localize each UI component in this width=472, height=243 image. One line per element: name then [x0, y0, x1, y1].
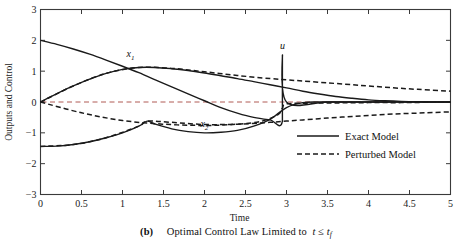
legend-label: Perturbed Model — [345, 149, 416, 160]
x-tick-label: 0.5 — [75, 198, 88, 209]
series-u-exact-model- — [41, 40, 451, 125]
x-tick-label: 2 — [202, 198, 207, 209]
legend-label: Exact Model — [345, 131, 399, 142]
curve-label-x1: x1 — [126, 48, 135, 62]
svg-text:x1: x1 — [126, 48, 135, 62]
x-axis-title: Time — [230, 213, 250, 223]
caption-var: t ≤ tf — [310, 226, 332, 237]
x-tick-label: 1 — [120, 198, 125, 209]
series-x1-perturbed-model- — [41, 67, 451, 102]
figure-panel-b: 00.511.522.533.544.553210−1−2−3 TimeOutp… — [0, 0, 472, 243]
y-tick-label: 0 — [32, 97, 37, 108]
x-tick-label: 3.5 — [321, 198, 334, 209]
caption-tag: (b) — [140, 226, 153, 237]
figure-caption: (b) Optimal Control Law Limited to t ≤ t… — [0, 226, 472, 239]
curve-label-u: u — [280, 40, 285, 51]
series-x1-exact-model- — [41, 67, 451, 102]
chart-canvas: 00.511.522.533.544.553210−1−2−3 TimeOutp… — [0, 0, 472, 243]
x-tick-label: 4 — [366, 198, 371, 209]
y-tick-label: −3 — [26, 189, 37, 200]
caption-text: Optimal Control Law Limited to — [167, 226, 307, 237]
svg-text:x2: x2 — [199, 118, 208, 132]
y-tick-label: −2 — [26, 158, 37, 169]
x-tick-label: 2.5 — [239, 198, 252, 209]
tick-labels: 00.511.522.533.544.553210−1−2−3 — [26, 4, 453, 209]
y-axis-title: Outputs and Control — [4, 63, 14, 141]
legend-entry: Perturbed Model — [297, 149, 416, 160]
chart-legend: Exact ModelPerturbed Model — [297, 131, 416, 160]
svg-text:u: u — [280, 40, 285, 51]
curve-label-x2: x2 — [199, 118, 208, 132]
y-tick-label: 3 — [32, 4, 37, 15]
x-tick-label: 1.5 — [157, 198, 170, 209]
x-tick-label: 5 — [448, 198, 453, 209]
x-tick-label: 4.5 — [403, 198, 416, 209]
y-tick-label: 2 — [32, 35, 37, 46]
y-tick-label: 1 — [32, 66, 37, 77]
caption-spacer — [156, 226, 164, 237]
legend-entry: Exact Model — [297, 131, 399, 142]
y-tick-label: −1 — [26, 127, 37, 138]
x-tick-label: 0 — [38, 198, 43, 209]
x-tick-label: 3 — [284, 198, 289, 209]
